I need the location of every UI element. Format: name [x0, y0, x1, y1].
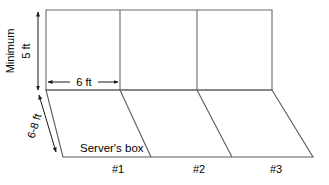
server-box-label-group: Server's box: [80, 142, 144, 154]
box-number-labels: #1 #2 #3: [112, 163, 282, 175]
box-label-1: #1: [112, 163, 124, 175]
width-dimension-label: 6 ft: [76, 76, 91, 88]
box-label-2: #2: [193, 163, 205, 175]
floor-divider-2: [197, 90, 232, 157]
height-dimension-label-value: 5 ft: [20, 43, 32, 58]
height-dimension-group: Minimum 5 ft: [4, 12, 38, 90]
court-diagram: Court wall and server's boxes perspectiv…: [0, 0, 329, 185]
depth-dimension-line: [39, 95, 56, 152]
diagram-container: Court wall and server's boxes perspectiv…: [0, 0, 329, 185]
depth-dimension-group: 6-8 ft: [25, 95, 56, 152]
height-dimension-label-minimum: Minimum: [4, 29, 16, 74]
width-dimension-group: 6 ft: [48, 74, 118, 89]
depth-dimension-label: 6-8 ft: [25, 112, 44, 139]
box-label-3: #3: [270, 163, 282, 175]
servers-box-label: Server's box: [80, 142, 144, 154]
